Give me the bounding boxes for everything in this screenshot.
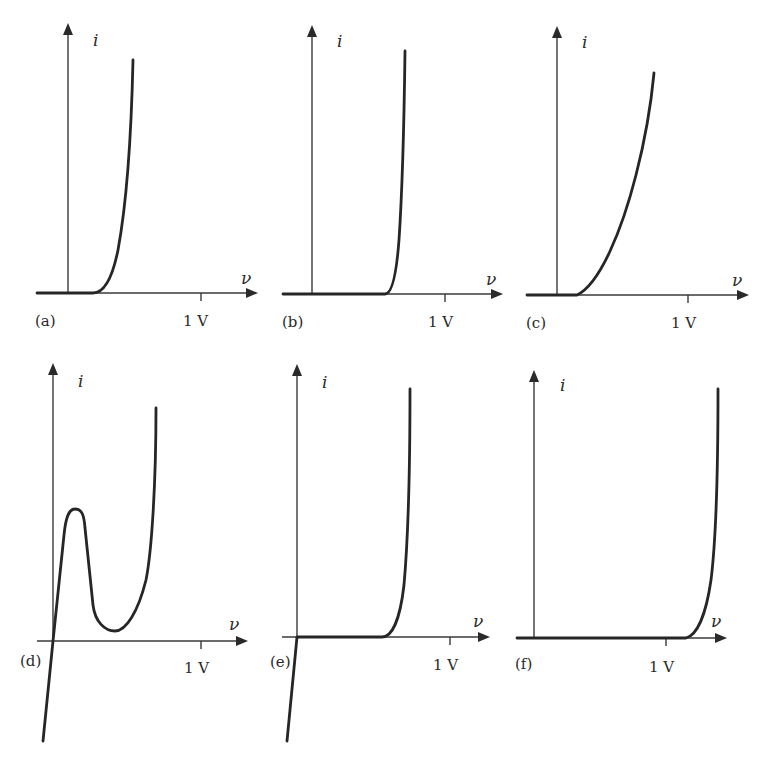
tick-label-1v: 1 V bbox=[183, 312, 209, 330]
panel-label: (a) bbox=[35, 312, 56, 330]
y-axis-label: i bbox=[560, 375, 565, 395]
panel-a: iν1 V(a) bbox=[35, 23, 258, 330]
iv-curve bbox=[517, 389, 718, 638]
panel-b: iν1 V(b) bbox=[282, 25, 503, 331]
x-axis-label: ν bbox=[241, 268, 251, 288]
tick-label-1v: 1 V bbox=[649, 658, 675, 676]
y-axis-arrow-icon bbox=[292, 364, 302, 376]
iv-curve bbox=[283, 51, 405, 294]
iv-curve bbox=[37, 60, 133, 293]
x-axis-arrow-icon bbox=[478, 632, 490, 642]
x-axis-label: ν bbox=[486, 269, 496, 289]
iv-curve bbox=[287, 389, 410, 741]
tick-label-1v: 1 V bbox=[184, 659, 210, 677]
y-axis-arrow-icon bbox=[529, 370, 539, 382]
y-axis-label: i bbox=[93, 30, 98, 50]
iv-curve bbox=[527, 73, 654, 295]
y-axis-label: i bbox=[78, 371, 83, 391]
iv-characteristics-figure: iν1 V(a)iν1 V(b)iν1 V(c)iν1 V(d)iν1 V(e)… bbox=[0, 0, 769, 768]
x-axis-arrow-icon bbox=[715, 633, 727, 643]
panel-d: iν1 V(d) bbox=[20, 363, 248, 741]
x-axis-label: ν bbox=[711, 611, 721, 631]
tick-label-1v: 1 V bbox=[428, 313, 454, 331]
x-axis-label: ν bbox=[473, 611, 483, 631]
x-axis-arrow-icon bbox=[236, 636, 248, 646]
x-axis-arrow-icon bbox=[737, 290, 749, 300]
tick-label-1v: 1 V bbox=[671, 314, 697, 332]
x-axis-arrow-icon bbox=[491, 289, 503, 299]
y-axis-arrow-icon bbox=[63, 23, 73, 35]
panel-e: iν1 V(e) bbox=[270, 364, 490, 741]
y-axis-label: i bbox=[322, 372, 327, 392]
y-axis-label: i bbox=[582, 32, 587, 52]
x-axis-label: ν bbox=[229, 614, 239, 634]
x-axis-arrow-icon bbox=[246, 288, 258, 298]
x-axis-label: ν bbox=[732, 270, 742, 290]
panel-f: iν1 V(f) bbox=[515, 370, 727, 676]
panel-c: iν1 V(c) bbox=[526, 26, 749, 332]
y-axis-label: i bbox=[337, 31, 342, 51]
panel-label: (c) bbox=[526, 314, 546, 332]
y-axis-arrow-icon bbox=[48, 363, 58, 375]
panel-label: (e) bbox=[270, 653, 291, 671]
iv-curve bbox=[43, 408, 156, 741]
panel-label: (d) bbox=[20, 652, 41, 670]
tick-label-1v: 1 V bbox=[433, 656, 459, 674]
y-axis-arrow-icon bbox=[307, 25, 317, 37]
panel-label: (f) bbox=[515, 655, 532, 673]
panel-label: (b) bbox=[282, 313, 303, 331]
y-axis-arrow-icon bbox=[552, 26, 562, 38]
